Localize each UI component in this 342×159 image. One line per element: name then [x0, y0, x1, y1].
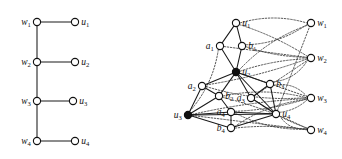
graph-node-w1[interactable] [307, 19, 314, 26]
graph-node-label-w1: w1 [21, 17, 31, 28]
graph-node-a4[interactable] [227, 108, 234, 115]
graph-node-a3[interactable] [247, 94, 254, 101]
graph-node-u3[interactable] [184, 111, 191, 118]
graph-node-label-b3: b3 [276, 79, 285, 90]
graph-node-b4[interactable] [227, 124, 234, 131]
graph-node-w2[interactable] [33, 58, 40, 65]
graph-node-label-w1: w1 [317, 18, 327, 29]
graph-node-label-w4: w4 [21, 136, 31, 147]
graph-node-u1[interactable] [232, 19, 239, 26]
graph-node-w3[interactable] [33, 97, 40, 104]
graph-node-label-b1: b1 [248, 41, 256, 52]
graph-edge-solid [222, 26, 234, 43]
graph-node-u4[interactable] [272, 110, 279, 117]
graph-node-label-w4: w4 [317, 125, 327, 136]
graph-node-u4[interactable] [71, 137, 78, 144]
graph-node-label-w3: w3 [21, 96, 31, 107]
graph-node-label-u4: u4 [282, 109, 291, 120]
graph-edge-dotted [246, 24, 307, 44]
graph-node-label-u4: u4 [81, 136, 90, 147]
graph-node-label-u2: u2 [242, 67, 250, 78]
graph-edge-dotted [240, 59, 307, 72]
graph-node-w1[interactable] [33, 18, 40, 25]
right-graph-svg: u1a1b1u2a2b3b2a3u3a4u4b4w1w2w3w4 [171, 0, 342, 159]
graph-node-u2[interactable] [71, 58, 78, 65]
graph-node-label-a3: a3 [237, 93, 246, 104]
graph-node-a1[interactable] [216, 42, 223, 49]
left-graph-panel: w1w2w3w4u1u2u3u4 [0, 0, 171, 159]
graph-edge-dotted [223, 92, 307, 98]
graph-node-w4[interactable] [33, 137, 40, 144]
graph-node-label-a1: a1 [206, 41, 214, 52]
graph-node-b3[interactable] [266, 80, 273, 87]
graph-edge-solid [235, 112, 272, 114]
graph-node-w3[interactable] [307, 94, 314, 101]
graph-node-label-a4: a4 [217, 107, 226, 118]
graph-node-label-w2: w2 [21, 57, 31, 68]
right-graph-panel: u1a1b1u2a2b3b2a3u3a4u4b4w1w2w3w4 [171, 0, 342, 159]
graph-edge-solid [237, 27, 241, 43]
left-graph-svg: w1w2w3w4u1u2u3u4 [0, 0, 171, 159]
graph-node-label-b4: b4 [217, 123, 226, 134]
graph-node-w2[interactable] [307, 54, 314, 61]
graph-node-w4[interactable] [307, 126, 314, 133]
graph-edge-solid [222, 49, 234, 69]
graph-node-u2[interactable] [232, 68, 239, 75]
graph-node-u1[interactable] [71, 18, 78, 25]
graph-node-label-u2: u2 [81, 57, 89, 68]
graph-node-label-w3: w3 [317, 93, 327, 104]
solid-edge-group [37, 22, 71, 141]
graph-node-label-u1: u1 [81, 17, 89, 28]
graph-node-label-u3: u3 [174, 110, 183, 121]
graph-node-label-u3: u3 [79, 96, 88, 107]
graph-node-a2[interactable] [198, 82, 205, 89]
graph-edge-dotted [206, 59, 307, 85]
graph-edge-solid [205, 88, 215, 94]
graph-node-label-w2: w2 [317, 53, 327, 64]
graph-node-b1[interactable] [238, 42, 245, 49]
node-group: w1w2w3w4u1u2u3u4 [21, 17, 90, 147]
graph-node-label-a2: a2 [188, 81, 196, 92]
figure-root: w1w2w3w4u1u2u3u4 u1a1b1u2a2b3b2a3u3a4u4b… [0, 0, 342, 159]
graph-edge-solid [237, 50, 241, 69]
graph-edge-solid [254, 86, 267, 95]
graph-node-label-u1: u1 [242, 18, 250, 29]
graph-node-b2[interactable] [215, 92, 222, 99]
graph-node-u3[interactable] [69, 97, 76, 104]
